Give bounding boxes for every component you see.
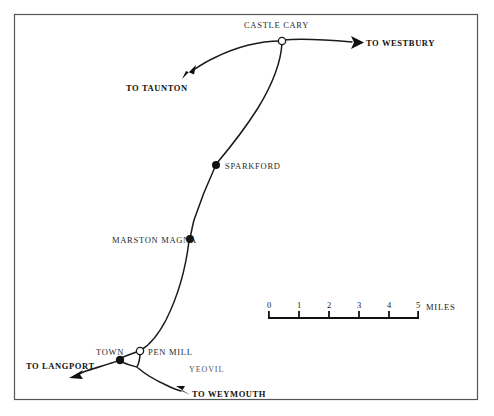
map-border [15,15,478,400]
destination-label-westbury: TO WESTBURY [366,39,435,48]
scale-bar-graphic [268,311,419,318]
line-castle-cary-to-westbury [283,39,352,42]
destination-label-langport: TO LANGPORT [26,362,95,371]
line-junction-town-to-south [122,362,137,367]
scale-tick-label-5: 5 [416,300,420,310]
station-label-sparkford: SPARKFORD [225,162,281,171]
arrow-to-westbury-icon [351,36,364,49]
scale-tick-label-0: 0 [267,300,271,310]
map-canvas [0,0,494,416]
line-castle-cary-to-taunton [192,41,281,71]
station-marker-castle-cary[interactable] [278,37,285,44]
line-sparkford-to-marston-magna [190,167,215,238]
scale-tick-label-2: 2 [327,300,331,310]
station-label-town: TOWN [96,348,124,357]
line-junction-to-weymouth [138,368,181,391]
arrow-to-taunton-icon [182,65,196,79]
station-label-marston-magna: MARSTON MAGNA [112,236,197,245]
scale-tick-label-4: 4 [387,300,391,310]
station-marker-pen-mill[interactable] [136,347,143,354]
station-label-castle-cary: CASTLE CARY [244,21,309,30]
station-label-pen-mill: PEN MILL [148,348,193,357]
arrow-to-langport-icon [69,370,83,379]
scale-tick-label-1: 1 [297,300,301,310]
station-marker-sparkford[interactable] [212,161,220,169]
railway-map: CASTLE CARY SPARKFORD MARSTON MAGNA TOWN… [0,0,494,416]
scale-tick-label-3: 3 [357,300,361,310]
line-castle-cary-to-sparkford [217,43,282,163]
area-label-yeovil: YEOVIL [189,366,224,374]
destination-label-weymouth: TO WEYMOUTH [192,390,266,399]
destination-label-taunton: TO TAUNTON [126,84,188,93]
station-marker-town[interactable] [116,356,124,364]
line-marston-magna-to-pen-mill [141,241,189,350]
scale-unit-label: MILES [426,302,456,312]
